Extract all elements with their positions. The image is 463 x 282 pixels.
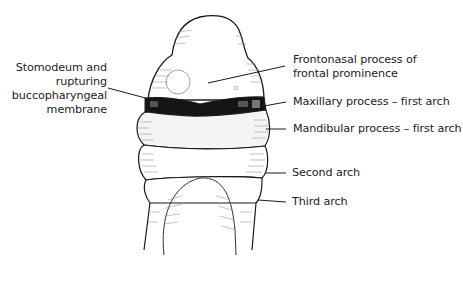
label-third-arch: Third arch [292, 195, 348, 209]
frontonasal-prominence [148, 16, 264, 100]
label-mandibular: Mandibular process – first arch [293, 122, 462, 136]
label-frontonasal: Frontonasal process of frontal prominenc… [293, 53, 417, 81]
label-stomodeum: Stomodeum and rupturing buccopharyngeal … [12, 61, 107, 117]
second-arch [139, 145, 268, 180]
leader-third-arch [258, 200, 286, 202]
label-maxillary: Maxillary process – first arch [293, 95, 450, 109]
label-second-arch: Second arch [292, 166, 360, 180]
leader-maxillary [264, 102, 286, 106]
third-arch [144, 177, 262, 203]
neck-body [144, 203, 256, 250]
embryo-face-illustration [0, 0, 463, 282]
mandibular-process [137, 110, 270, 149]
